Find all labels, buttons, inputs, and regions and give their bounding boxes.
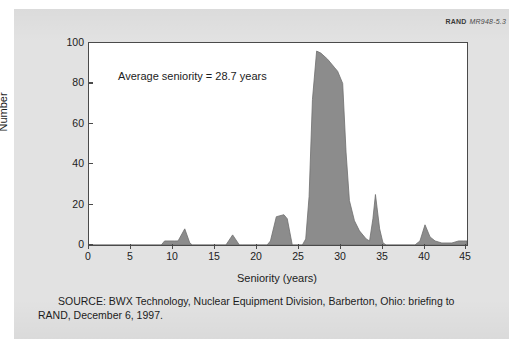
x-tick-label-25: 25 [283,251,313,262]
y-tick-label-100: 100 [54,37,84,48]
x-tick-mark-5 [130,244,131,249]
figure-identifier: RANDMR948-5.3 [446,18,506,25]
figure-container: RANDMR948-5.3 Number 100 80 60 40 20 0 [0,0,523,348]
y-tick-mark-40 [88,163,93,164]
average-seniority-annotation: Average seniority = 28.7 years [118,70,267,82]
y-tick-label-80: 80 [54,77,84,88]
y-tick-label-40: 40 [54,158,84,169]
x-tick-mark-25 [298,244,299,249]
x-axis-ticks: 0 5 10 15 20 25 30 35 40 45 [88,244,466,270]
x-tick-label-0: 0 [73,251,103,262]
x-tick-mark-40 [424,244,425,249]
y-tick-mark-20 [88,204,93,205]
x-tick-mark-35 [382,244,383,249]
y-tick-mark-100 [88,42,93,43]
rand-logo-text: RAND [446,18,467,25]
x-tick-mark-0 [88,244,89,249]
x-tick-label-10: 10 [157,251,187,262]
y-axis-title: Number [0,92,9,131]
x-tick-label-15: 15 [199,251,229,262]
x-tick-mark-45 [465,244,466,249]
x-tick-mark-30 [340,244,341,249]
x-tick-label-30: 30 [325,251,355,262]
y-axis-ticks: 100 80 60 40 20 0 [50,42,84,244]
x-tick-label-45: 45 [450,251,480,262]
y-tick-label-0: 0 [54,239,84,250]
y-tick-label-60: 60 [54,118,84,129]
x-tick-label-20: 20 [241,251,271,262]
x-tick-mark-10 [172,244,173,249]
figure-number: MR948-5.3 [470,18,506,25]
y-tick-mark-80 [88,82,93,83]
y-tick-label-20: 20 [54,199,84,210]
source-note: SOURCE: BWX Technology, Nuclear Equipmen… [38,294,488,322]
y-tick-mark-60 [88,123,93,124]
x-tick-label-5: 5 [115,251,145,262]
source-note-text: SOURCE: BWX Technology, Nuclear Equipmen… [38,295,454,321]
x-tick-mark-20 [256,244,257,249]
x-axis-title: Seniority (years) [88,272,466,284]
x-tick-mark-15 [214,244,215,249]
x-tick-label-40: 40 [409,251,439,262]
x-tick-label-35: 35 [367,251,397,262]
